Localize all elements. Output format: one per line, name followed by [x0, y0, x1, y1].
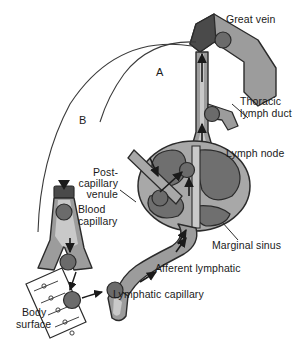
label-blood-capillary-line2: capillary [78, 216, 117, 228]
lymphocyte-in-node [180, 163, 195, 178]
label-body-surface-line1: Body [22, 307, 46, 319]
label-body-surface-line2: surface [16, 319, 51, 331]
label-marginal-sinus: Marginal sinus [212, 240, 281, 252]
route-a-curve [100, 42, 196, 122]
lymphocyte-in-blood-capillary [56, 204, 72, 220]
label-afferent-lymphatic: Afferent lymphatic [155, 263, 241, 275]
label-thoracic-lymph-duct-line2: lymph duct [240, 108, 292, 120]
lymphatic-recirculation-figure: Great vein Thoracic lymph duct Lymph nod… [0, 0, 302, 344]
leader-marginal-sinus [222, 222, 238, 240]
leader-post-capillary-venule [120, 190, 136, 202]
label-lymph-node: Lymph node [226, 148, 284, 160]
label-blood-capillary-line1: Blood [78, 204, 105, 216]
lymphocyte-in-thoracic-duct [205, 107, 220, 122]
route-label-a: A [156, 66, 163, 78]
label-post-capillary-venule-line3: venule [62, 189, 118, 201]
lymphocyte-in-tissue [64, 292, 81, 309]
label-thoracic-lymph-duct-line1: Thoracic [240, 96, 281, 108]
label-great-vein: Great vein [226, 14, 275, 26]
lymphocyte-in-node [152, 190, 168, 206]
route-label-b: B [79, 114, 86, 126]
label-lymphatic-capillary: Lymphatic capillary [113, 289, 204, 301]
lymphocyte-in-great-vein [215, 32, 231, 48]
